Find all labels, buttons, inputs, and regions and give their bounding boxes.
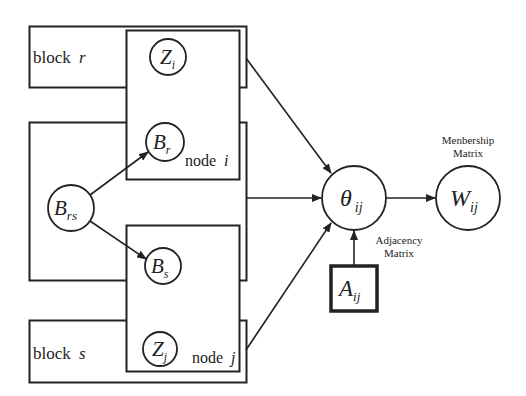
b-s-symbol: B xyxy=(151,254,164,278)
node-z-i: Zi xyxy=(150,39,186,75)
svg-text:block r: block r xyxy=(33,48,86,67)
block-s-label: block xyxy=(33,344,71,363)
node-j-label: node xyxy=(192,349,223,366)
block-r-label: block xyxy=(33,48,71,67)
node-j-var: j xyxy=(229,349,236,367)
edge-node-i-to-theta xyxy=(246,58,331,173)
node-i-var: i xyxy=(224,152,228,169)
b-r-symbol: B xyxy=(153,130,166,154)
b-rs-subscript: rs xyxy=(67,208,77,223)
node-i-label: node xyxy=(185,152,216,169)
edge-node-j-to-theta xyxy=(246,223,331,350)
a-symbol: A xyxy=(337,276,354,301)
graphical-model-diagram: block r block s node i node j Zi xyxy=(0,0,526,396)
z-i-subscript: i xyxy=(172,58,175,72)
membership-label-line2: Matrix xyxy=(453,147,483,159)
node-a-observed: Aij xyxy=(331,266,377,311)
z-i-symbol: Z xyxy=(160,45,172,69)
adjacency-label-line2: Matrix xyxy=(384,247,414,259)
node-z-j: Zj xyxy=(143,332,177,366)
adjacency-label-line1: Adjacency xyxy=(375,234,423,246)
theta-symbol: θ xyxy=(340,185,352,211)
svg-text:block s: block s xyxy=(33,344,86,363)
b-s-subscript: s xyxy=(164,267,169,281)
membership-label-line1: Menbership xyxy=(442,134,495,146)
node-b-rs: Brs xyxy=(48,185,94,231)
a-subscript: ij xyxy=(353,289,361,304)
node-b-s: Bs xyxy=(145,248,181,284)
b-rs-symbol: B xyxy=(54,196,67,220)
block-s-var: s xyxy=(79,344,86,363)
w-subscript: ij xyxy=(470,200,478,215)
node-theta: θij xyxy=(322,166,386,230)
node-w: Wij xyxy=(436,166,500,230)
theta-subscript: ij xyxy=(355,200,363,215)
b-r-subscript: r xyxy=(166,143,171,157)
z-j-symbol: Z xyxy=(152,337,164,361)
w-symbol: W xyxy=(450,185,472,211)
node-b-r: Br xyxy=(146,123,184,161)
block-r-var: r xyxy=(79,48,86,67)
